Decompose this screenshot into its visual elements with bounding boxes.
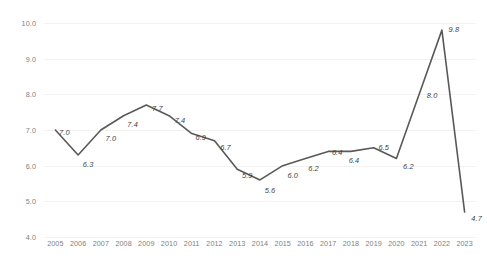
x-tick-label: 2008: [115, 239, 131, 248]
data-label: 6.7: [220, 142, 231, 151]
data-label: 6.9: [195, 132, 206, 141]
data-label: 7.0: [106, 134, 117, 143]
x-tick-label: 2016: [297, 239, 313, 248]
y-tick-label: 8.0: [26, 90, 36, 99]
x-tick-label: 2010: [161, 239, 177, 248]
y-tick-label: 7.0: [26, 126, 36, 135]
x-tick-label: 2020: [388, 239, 404, 248]
data-label: 6.0: [287, 170, 298, 179]
x-tick-label: 2007: [93, 239, 109, 248]
y-axis: 10.09.08.07.06.05.04.0: [0, 0, 44, 266]
line-chart: 10.09.08.07.06.05.04.0 7.06.37.07.47.77.…: [0, 0, 487, 266]
x-tick-label: 2015: [275, 239, 291, 248]
data-label: 6.2: [403, 161, 414, 170]
x-tick-label: 2017: [320, 239, 336, 248]
x-tick-label: 2023: [456, 239, 472, 248]
x-tick-label: 2005: [47, 239, 63, 248]
y-tick-label: 9.0: [26, 54, 36, 63]
data-label: 6.2: [308, 163, 319, 172]
data-label: 8.0: [427, 91, 438, 100]
data-label: 7.0: [59, 128, 70, 137]
x-tick-label: 2011: [184, 239, 200, 248]
series-polyline: [55, 30, 464, 212]
y-tick-label: 4.0: [26, 233, 36, 242]
x-axis: 2005200620072008200920102011201220132014…: [44, 239, 476, 259]
x-tick-label: 2006: [70, 239, 86, 248]
data-label: 9.8: [449, 25, 460, 34]
x-tick-label: 2013: [229, 239, 245, 248]
data-label: 4.7: [471, 214, 482, 223]
data-label: 5.9: [242, 171, 253, 180]
data-label: 7.4: [127, 119, 138, 128]
data-label: 6.5: [378, 142, 389, 151]
x-tick-label: 2009: [138, 239, 154, 248]
gridline: [44, 237, 476, 238]
x-tick-label: 2019: [365, 239, 381, 248]
data-label: 5.6: [265, 185, 276, 194]
x-tick-label: 2014: [252, 239, 268, 248]
x-tick-label: 2018: [343, 239, 359, 248]
y-tick-label: 10.0: [22, 19, 36, 28]
plot-area: 7.06.37.07.47.77.46.96.75.95.66.06.26.46…: [44, 23, 476, 237]
y-tick-label: 5.0: [26, 197, 36, 206]
x-tick-label: 2022: [434, 239, 450, 248]
x-tick-label: 2021: [411, 239, 427, 248]
data-label: 6.4: [349, 156, 360, 165]
x-tick-label: 2012: [206, 239, 222, 248]
data-label: 7.4: [175, 115, 186, 124]
data-label: 6.4: [332, 148, 343, 157]
data-label: 7.7: [152, 104, 163, 113]
y-tick-label: 6.0: [26, 161, 36, 170]
data-label: 6.3: [83, 159, 94, 168]
series-line: [44, 23, 476, 237]
